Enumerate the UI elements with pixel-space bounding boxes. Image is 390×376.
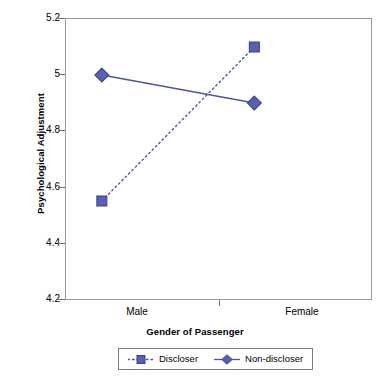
- data-point-discloser-female: [249, 42, 259, 52]
- y-tick-label: 4.6: [20, 182, 60, 192]
- legend-swatch-square-dotted-icon: [128, 354, 154, 365]
- x-tick-label-female: Female: [257, 306, 347, 318]
- y-tick-label: 5: [20, 69, 60, 79]
- legend-label: Discloser: [159, 354, 198, 364]
- y-tick-mark: [58, 130, 65, 131]
- plot-area: [65, 18, 372, 300]
- y-tick-mark: [58, 243, 65, 244]
- y-tick-label: 4.4: [20, 238, 60, 248]
- y-tick-label: 4.2: [20, 294, 60, 304]
- y-tick-mark: [58, 187, 65, 188]
- legend-item-non-discloser: Non-discloser: [214, 354, 303, 365]
- y-tick-mark: [58, 74, 65, 75]
- y-tick-mark: [58, 299, 65, 300]
- x-axis-title: Gender of Passenger: [0, 326, 390, 337]
- legend-item-discloser: Discloser: [128, 354, 198, 365]
- x-axis-tick-mark: [219, 300, 220, 306]
- data-point-discloser-male: [97, 196, 107, 206]
- plot-canvas: [66, 19, 371, 299]
- series-line-discloser: [102, 47, 255, 201]
- y-axis-tick-labels: 5.2 5 4.8 4.6 4.4 4.2: [18, 0, 60, 376]
- interaction-line-chart: Psychological Adjustment 5.2 5 4.8 4.6 4…: [0, 0, 390, 376]
- chart-legend: Discloser Non-discloser: [118, 348, 313, 370]
- y-tick-label: 5.2: [20, 13, 60, 23]
- x-tick-label-male: Male: [92, 306, 182, 318]
- data-point-non-discloser-female: [247, 96, 261, 110]
- y-tick-label: 4.8: [20, 125, 60, 135]
- data-point-non-discloser-male: [95, 68, 109, 82]
- legend-label: Non-discloser: [245, 354, 303, 364]
- legend-swatch-diamond-solid-icon: [214, 354, 240, 365]
- y-tick-mark: [58, 18, 65, 19]
- series-line-non-discloser: [102, 75, 255, 103]
